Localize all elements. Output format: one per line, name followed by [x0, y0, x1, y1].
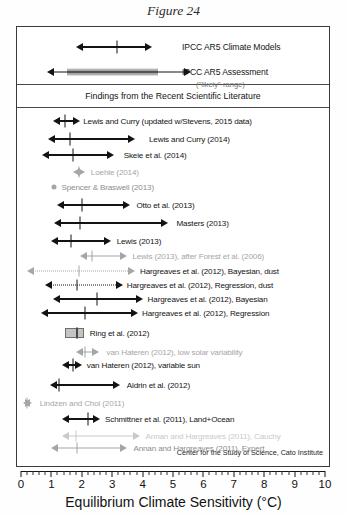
- series-label: Masters (2013): [176, 219, 228, 228]
- range-line: [62, 204, 125, 206]
- best-estimate-tick: [78, 167, 79, 178]
- best-estimate-tick: [69, 133, 70, 146]
- range-line: [53, 138, 130, 140]
- axis-minor-tick: [93, 471, 94, 475]
- range-arrow-left: [41, 309, 48, 317]
- series-label: van Hateren (2012), variable sun: [87, 361, 200, 370]
- axis-minor-tick: [154, 471, 155, 475]
- range-arrow-right: [133, 432, 140, 440]
- range-arrow-right: [131, 309, 138, 317]
- series-label: IPCC AR5 Climate Models: [182, 42, 280, 52]
- range-line: [52, 72, 186, 73]
- panel-divider-top: [17, 84, 329, 85]
- best-estimate-tick: [84, 347, 85, 358]
- range-line: [81, 46, 147, 48]
- range-arrow-left: [53, 295, 60, 303]
- axis-minor-tick: [245, 471, 246, 475]
- range-arrow-right: [128, 267, 135, 275]
- section-header-literature: Findings from the Recent Scientific Lite…: [17, 91, 329, 101]
- axis-minor-tick: [87, 471, 88, 475]
- series-label: van Hateren (2012), low solar variabilit…: [107, 348, 243, 357]
- series-label: IPCC AR5 Assessment: [182, 67, 268, 77]
- best-estimate-tick: [71, 235, 72, 248]
- axis-minor-tick: [45, 471, 46, 475]
- series-label: Hargreaves et al. (2012), Regression: [142, 309, 269, 318]
- axis-minor-tick: [227, 471, 228, 475]
- axis-minor-tick: [136, 471, 137, 475]
- axis-minor-tick: [185, 471, 186, 475]
- axis-minor-tick: [282, 471, 283, 475]
- range-arrow-left: [42, 151, 49, 159]
- axis-minor-tick: [312, 471, 313, 475]
- best-estimate-tick: [87, 413, 88, 426]
- axis-tick-label: 6: [200, 478, 206, 490]
- range-arrow-right: [120, 252, 127, 260]
- range-arrow-left: [51, 237, 58, 245]
- axis-tick-label: 2: [79, 478, 85, 490]
- range-line: [56, 240, 105, 242]
- best-estimate-tick: [77, 443, 78, 454]
- best-estimate-tick: [76, 328, 78, 339]
- range-arrow-left: [47, 68, 54, 76]
- best-estimate-tick: [27, 398, 28, 409]
- range-line: [85, 256, 122, 257]
- axis-major-tick: [21, 471, 22, 477]
- axis-tick-label: 4: [139, 478, 145, 490]
- axis-minor-tick: [118, 471, 119, 475]
- axis-major-tick: [233, 471, 234, 477]
- series-label: Lewis (2013), after Forest et al. (2006): [132, 252, 264, 261]
- series-label: Annan and Hargreaves (2011), Expert: [133, 444, 264, 453]
- axis-minor-tick: [197, 471, 198, 475]
- range-line: [55, 384, 115, 386]
- axis-minor-tick: [179, 471, 180, 475]
- series-label: Lewis and Curry (2014): [149, 135, 230, 144]
- axis-minor-tick: [252, 471, 253, 475]
- series-label: Annan and Hargreaves (2011), Cauchy: [146, 432, 281, 441]
- axis-major-tick: [325, 471, 326, 477]
- best-estimate-tick: [72, 149, 73, 162]
- range-arrow-left: [80, 252, 87, 260]
- axis-major-tick: [294, 471, 295, 477]
- axis-tick-label: 7: [231, 478, 237, 490]
- series-label: Skeie et al. (2014): [124, 151, 187, 160]
- range-arrow-left: [51, 444, 58, 452]
- axis-minor-tick: [100, 471, 101, 475]
- range-line: [67, 436, 135, 437]
- range-arrow-right: [104, 237, 111, 245]
- axis-minor-tick: [75, 471, 76, 475]
- range-arrow-left: [53, 117, 60, 125]
- axis-minor-tick: [288, 471, 289, 475]
- range-line: [32, 271, 130, 272]
- axis-minor-tick: [57, 471, 58, 475]
- best-estimate-tick: [84, 307, 85, 320]
- axis-tick-label: 1: [48, 478, 54, 490]
- range-line: [56, 448, 122, 449]
- best-estimate-tick: [65, 115, 66, 128]
- axis-minor-tick: [33, 471, 34, 475]
- axis-minor-tick: [300, 471, 301, 475]
- axis-minor-tick: [318, 471, 319, 475]
- range-arrow-left: [27, 267, 34, 275]
- axis-minor-tick: [148, 471, 149, 475]
- range-arrow-right: [145, 43, 152, 51]
- estimate-point: [52, 185, 57, 190]
- range-arrow-left: [76, 348, 83, 356]
- axis-major-tick: [81, 471, 82, 477]
- x-axis-title: Equilibrium Climate Sensitivity (°C): [0, 494, 347, 510]
- range-arrow-right: [75, 361, 82, 369]
- best-estimate-tick: [97, 293, 98, 306]
- series-sublabel: ("likely" range): [196, 80, 245, 89]
- axis-minor-tick: [69, 471, 70, 475]
- range-arrow-left: [54, 219, 61, 227]
- axis-minor-tick: [27, 471, 28, 475]
- axis-minor-tick: [124, 471, 125, 475]
- range-arrow-right: [120, 444, 127, 452]
- range-arrow-left: [76, 43, 83, 51]
- axis-major-tick: [203, 471, 204, 477]
- axis-minor-tick: [130, 471, 131, 475]
- series-label: Lewis (2013): [117, 237, 162, 246]
- axis-minor-tick: [276, 471, 277, 475]
- axis-minor-tick: [39, 471, 40, 475]
- series-label: Loehle (2014): [91, 168, 139, 177]
- axis-tick-label: 10: [319, 478, 332, 490]
